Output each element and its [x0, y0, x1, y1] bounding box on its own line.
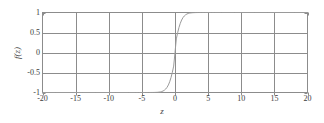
x-tick-label: 0: [173, 95, 177, 103]
x-axis-label: z: [0, 106, 324, 116]
x-tick-label: -20: [37, 95, 48, 103]
x-tick-label: -10: [103, 95, 114, 103]
y-tick-label: 1: [14, 9, 40, 17]
x-tick-label: 10: [237, 95, 245, 103]
y-axis-label: f(z): [0, 36, 34, 70]
x-tick-label: 15: [270, 95, 278, 103]
x-tick-label: 20: [304, 95, 312, 103]
x-tick-label: -15: [70, 95, 81, 103]
chart-figure: 10.50-0.5-1 -20-15-10-505101520 f(z) z: [0, 0, 324, 123]
x-tick-label: -5: [139, 95, 146, 103]
x-tick-label: 5: [206, 95, 210, 103]
